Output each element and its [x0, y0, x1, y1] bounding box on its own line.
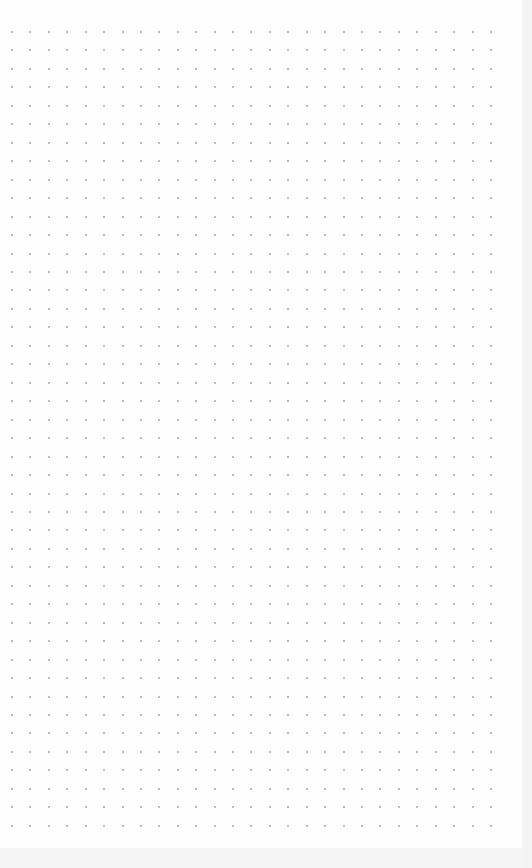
grid-dot: [250, 345, 252, 347]
grid-dot: [490, 31, 492, 33]
grid-dot: [343, 603, 345, 605]
grid-dot: [287, 548, 289, 550]
grid-dot: [324, 179, 326, 181]
grid-dot: [232, 289, 234, 291]
grid-dot: [85, 123, 87, 125]
grid-dot: [472, 437, 474, 439]
grid-dot: [214, 197, 216, 199]
grid-dot: [287, 640, 289, 642]
grid-dot: [343, 714, 345, 716]
vertical-scrollbar[interactable]: [522, 0, 532, 868]
grid-dot: [48, 419, 50, 421]
grid-dot: [195, 419, 197, 421]
grid-dot: [306, 326, 308, 328]
grid-dot: [232, 216, 234, 218]
grid-dot: [435, 86, 437, 88]
grid-dot: [103, 31, 105, 33]
grid-dot: [416, 566, 418, 568]
grid-dot: [195, 197, 197, 199]
grid-dot: [343, 696, 345, 698]
grid-dot: [11, 511, 13, 513]
grid-dot: [269, 769, 271, 771]
grid-dot: [379, 825, 381, 827]
grid-dot: [177, 788, 179, 790]
grid-dot: [122, 732, 124, 734]
grid-dot: [232, 677, 234, 679]
grid-dot: [379, 234, 381, 236]
grid-dot: [158, 49, 160, 51]
grid-dot: [287, 142, 289, 144]
grid-dot: [361, 677, 363, 679]
grid-dot: [66, 68, 68, 70]
grid-dot: [11, 603, 13, 605]
grid-dot: [214, 677, 216, 679]
grid-dot: [195, 326, 197, 328]
grid-dot: [306, 732, 308, 734]
grid-dot: [453, 197, 455, 199]
grid-dot: [472, 456, 474, 458]
grid-dot: [214, 234, 216, 236]
grid-dot: [195, 566, 197, 568]
grid-dot: [343, 566, 345, 568]
grid-dot: [416, 271, 418, 273]
grid-dot: [11, 31, 13, 33]
grid-dot: [343, 86, 345, 88]
grid-dot: [472, 105, 474, 107]
grid-dot: [398, 769, 400, 771]
grid-dot: [324, 197, 326, 199]
grid-dot: [472, 493, 474, 495]
grid-dot: [361, 751, 363, 753]
grid-dot: [361, 160, 363, 162]
grid-dot: [435, 548, 437, 550]
grid-dot: [306, 640, 308, 642]
grid-dot: [361, 31, 363, 33]
grid-dot: [177, 622, 179, 624]
grid-dot: [11, 493, 13, 495]
grid-dot: [11, 548, 13, 550]
grid-dot: [85, 677, 87, 679]
grid-dot: [85, 86, 87, 88]
grid-dot: [361, 216, 363, 218]
grid-dot: [29, 382, 31, 384]
grid-dot: [490, 622, 492, 624]
grid-dot: [250, 769, 252, 771]
grid-dot: [269, 179, 271, 181]
grid-dot: [250, 788, 252, 790]
grid-dot: [269, 714, 271, 716]
grid-dot: [11, 529, 13, 531]
grid-dot: [195, 382, 197, 384]
grid-dot: [435, 68, 437, 70]
grid-dot: [287, 123, 289, 125]
grid-dot: [361, 806, 363, 808]
grid-dot: [453, 659, 455, 661]
grid-dot: [85, 49, 87, 51]
grid-dot: [343, 289, 345, 291]
grid-dot: [140, 529, 142, 531]
grid-dot: [232, 769, 234, 771]
drawing-canvas[interactable]: [0, 0, 522, 848]
grid-dot: [435, 179, 437, 181]
grid-dot: [416, 677, 418, 679]
grid-dot: [361, 714, 363, 716]
grid-dot: [379, 437, 381, 439]
grid-dot: [232, 345, 234, 347]
grid-dot: [29, 123, 31, 125]
grid-dot: [122, 696, 124, 698]
grid-dot: [103, 603, 105, 605]
grid-dot: [324, 806, 326, 808]
grid-dot: [48, 400, 50, 402]
grid-dot: [250, 326, 252, 328]
grid-dot: [48, 677, 50, 679]
grid-dot: [490, 308, 492, 310]
grid-dot: [103, 456, 105, 458]
grid-dot: [490, 548, 492, 550]
grid-dot: [29, 308, 31, 310]
grid-dot: [287, 160, 289, 162]
grid-dot: [122, 511, 124, 513]
grid-dot: [361, 474, 363, 476]
grid-dot: [158, 234, 160, 236]
grid-dot: [85, 31, 87, 33]
grid-dot: [232, 419, 234, 421]
grid-dot: [361, 529, 363, 531]
grid-dot: [435, 714, 437, 716]
